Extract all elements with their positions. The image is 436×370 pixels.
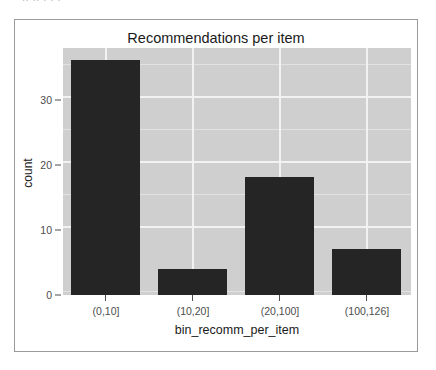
x-tick-label-10-20: (10,20] xyxy=(177,305,210,317)
gridline-vertical-major xyxy=(192,48,194,295)
y-tick-mark xyxy=(55,100,61,101)
y-tick-label-0: 0 xyxy=(46,289,52,301)
chart-figure: Recommendations per item 0 10 20 30 coun… xyxy=(14,19,418,352)
bar-100-126 xyxy=(332,249,401,295)
bar-0-10 xyxy=(71,60,140,295)
plot-panel xyxy=(63,48,411,295)
x-tick-mark xyxy=(105,295,106,301)
cropped-text-artifact: .. .. . . . xyxy=(0,0,436,12)
y-tick-label-10: 10 xyxy=(40,224,52,236)
y-tick-mark xyxy=(55,165,61,166)
x-tick-label-0-10: (0,10] xyxy=(93,305,120,317)
y-tick-label-20: 20 xyxy=(40,159,52,171)
y-tick-label-30: 30 xyxy=(40,94,52,106)
x-tick-mark xyxy=(192,295,193,301)
y-tick-mark xyxy=(55,295,61,296)
x-tick-mark xyxy=(366,295,367,301)
x-axis-title: bin_recomm_per_item xyxy=(63,323,411,337)
bar-20-100 xyxy=(245,177,314,295)
y-tick-mark xyxy=(55,230,61,231)
bar-10-20 xyxy=(158,269,227,295)
y-axis: 0 10 20 30 count xyxy=(15,48,63,295)
x-tick-label-20-100: (20,100] xyxy=(261,305,300,317)
cropped-text-glyphs: .. .. . . . xyxy=(22,0,61,3)
y-axis-title: count xyxy=(21,113,35,233)
chart-title: Recommendations per item xyxy=(15,30,417,46)
x-tick-mark xyxy=(279,295,280,301)
x-axis: (0,10] (10,20] (20,100] (100,126] xyxy=(63,295,411,325)
x-tick-label-100-126: (100,126] xyxy=(345,305,389,317)
